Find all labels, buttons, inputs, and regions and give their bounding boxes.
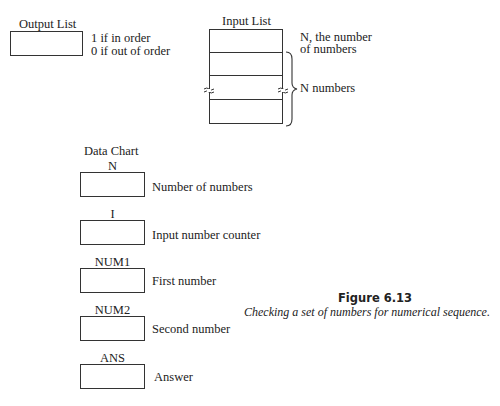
output-note-in-order: 1 if in order xyxy=(91,31,150,45)
var-desc-num1: First number xyxy=(152,274,216,288)
var-name-num1: NUM1 xyxy=(80,255,145,269)
figure-caption-text: Checking a set of numbers for numerical … xyxy=(244,305,490,319)
var-desc-i: Input number counter xyxy=(152,228,260,242)
var-desc-n: Number of numbers xyxy=(152,180,253,194)
var-box-ans xyxy=(80,364,145,389)
var-name-i: I xyxy=(80,207,145,221)
output-list-box xyxy=(10,31,83,56)
input-list-row-divider xyxy=(210,52,282,53)
right-brace-icon xyxy=(285,51,301,127)
break-mark-icon xyxy=(203,84,215,96)
brace-note: N numbers xyxy=(300,81,355,95)
input-note-line2: of numbers xyxy=(300,42,357,56)
var-name-num2: NUM2 xyxy=(80,303,145,317)
var-desc-ans: Answer xyxy=(154,370,193,384)
var-desc-num2: Second number xyxy=(152,322,230,336)
var-box-i xyxy=(80,220,145,245)
data-chart-title: Data Chart xyxy=(84,144,139,158)
input-list-title: Input List xyxy=(222,14,271,28)
input-list-row-divider xyxy=(210,99,282,100)
input-list-box xyxy=(209,29,283,124)
output-note-out-of-order: 0 if out of order xyxy=(91,44,170,58)
figure-number: Figure 6.13 xyxy=(338,291,412,305)
var-box-num2 xyxy=(80,316,145,341)
var-box-n xyxy=(80,172,145,197)
input-list-row-divider xyxy=(210,75,282,76)
var-box-num1 xyxy=(80,268,145,293)
output-list-title: Output List xyxy=(19,17,76,31)
var-name-ans: ANS xyxy=(80,351,145,365)
var-name-n: N xyxy=(80,159,145,173)
